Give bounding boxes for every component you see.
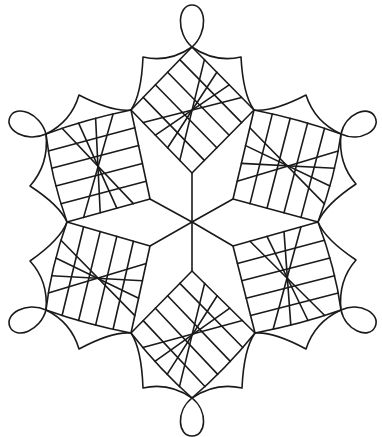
spoke-line — [150, 222, 192, 246]
grid-line — [113, 241, 133, 329]
loop-lower-left-icon — [9, 307, 46, 333]
loop-bottom-icon — [180, 398, 203, 436]
grid-line — [246, 276, 334, 299]
loop-upper-left-icon — [9, 111, 46, 137]
grid-line — [273, 227, 301, 329]
grid-line — [143, 321, 243, 348]
grid-line — [301, 128, 325, 217]
grid-line — [48, 128, 134, 151]
pattern-canvas — [0, 0, 382, 437]
grid-line — [250, 128, 325, 204]
grid-line — [143, 97, 204, 160]
center-spokes — [150, 173, 233, 271]
scallop-edge — [254, 95, 341, 134]
loop-lower-right-icon — [341, 307, 376, 333]
grid-line — [250, 114, 272, 204]
scallop-edge — [192, 333, 255, 398]
grid-line — [237, 240, 324, 263]
grid-line — [143, 97, 241, 122]
spoke-line — [150, 199, 192, 222]
spoke-line — [192, 222, 233, 246]
scallop-edge — [46, 95, 131, 134]
scallop-edge — [255, 310, 341, 349]
grid-line — [284, 123, 308, 213]
scallop-edge — [318, 134, 356, 222]
grid-line — [96, 236, 117, 325]
grid-line — [62, 227, 84, 316]
spoke-line — [192, 199, 233, 222]
loop-top-icon — [180, 5, 203, 47]
grid-line — [61, 240, 135, 315]
loop-upper-right-icon — [341, 111, 376, 137]
grid-line — [52, 146, 139, 169]
grid-line — [61, 181, 146, 204]
grid-line — [251, 293, 339, 316]
grid-line — [84, 114, 113, 217]
grid-line — [267, 118, 290, 208]
scallop-edge — [46, 310, 131, 349]
